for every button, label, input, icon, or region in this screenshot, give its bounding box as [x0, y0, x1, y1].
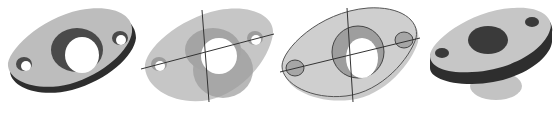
flange-outline-view	[280, 0, 425, 114]
flange-solid-drawing	[0, 0, 140, 114]
flange-transparent-drawing	[135, 0, 280, 114]
flange-solid-view	[0, 0, 140, 114]
flange-outline-drawing	[280, 0, 425, 114]
flange-transparent-view	[135, 0, 280, 114]
flange-banded-view	[420, 0, 559, 114]
flange-banded-drawing	[420, 0, 559, 114]
